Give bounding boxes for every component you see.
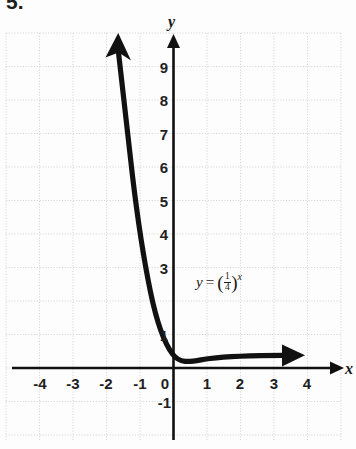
x-axis-name: x bbox=[345, 361, 353, 377]
x-tick-label-neg2: -2 bbox=[99, 376, 112, 391]
x-tick-label-4: 4 bbox=[303, 376, 311, 391]
x-axis-arrowhead bbox=[330, 362, 344, 375]
y-tick-label-4: 4 bbox=[160, 227, 168, 242]
problem-number: 5. bbox=[6, 0, 24, 13]
y-tick-label-3: 3 bbox=[160, 261, 168, 276]
equation-base-fraction: 1 4 bbox=[224, 272, 231, 293]
y-axis-arrowhead bbox=[167, 34, 180, 48]
y-tick-label-8: 8 bbox=[160, 93, 168, 108]
equation-lhs: y bbox=[196, 275, 203, 290]
y-axis-name: y bbox=[168, 14, 175, 30]
y-tick-label-6: 6 bbox=[160, 160, 168, 175]
x-tick-label-3: 3 bbox=[270, 376, 278, 391]
graph-figure: -4 -3 -2 -1 0 1 2 3 4 9 8 7 6 5 4 3 1 -1… bbox=[0, 0, 356, 449]
x-tick-label-neg4: -4 bbox=[33, 376, 46, 391]
curve-right-arrowhead bbox=[282, 345, 305, 367]
x-tick-label-2: 2 bbox=[236, 376, 244, 391]
equation-annotation: y = ( 1 4 ) x bbox=[196, 272, 242, 293]
x-tick-label-zero: 0 bbox=[161, 376, 169, 391]
x-tick-label-1: 1 bbox=[203, 376, 211, 391]
fraction-denominator: 4 bbox=[224, 282, 231, 293]
y-tick-label-neg1: -1 bbox=[158, 395, 171, 410]
y-tick-label-1: 1 bbox=[160, 328, 168, 343]
fraction-numerator: 1 bbox=[224, 272, 231, 282]
equation-exponent: x bbox=[238, 272, 242, 282]
x-axis bbox=[12, 362, 344, 375]
y-tick-label-9: 9 bbox=[160, 60, 168, 75]
x-tick-label-neg1: -1 bbox=[133, 376, 146, 391]
y-tick-label-7: 7 bbox=[160, 127, 168, 142]
y-tick-label-5: 5 bbox=[160, 194, 168, 209]
x-tick-label-neg3: -3 bbox=[66, 376, 79, 391]
equation-open-paren: ( bbox=[217, 273, 223, 292]
exponential-curve bbox=[106, 33, 306, 367]
equation-operator: = bbox=[206, 275, 214, 290]
